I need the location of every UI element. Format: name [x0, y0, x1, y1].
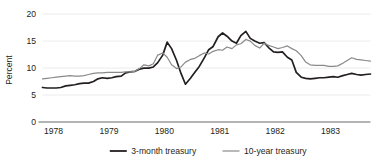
y-tick-label-5: 5 [31, 90, 36, 100]
chart-canvas: 05101520 197819791980198119821983 Percen… [0, 0, 380, 164]
y-tick-label-20: 20 [26, 9, 36, 19]
x-tick-label-1978: 1978 [44, 126, 63, 136]
data-series-group [43, 31, 371, 88]
y-tick-label-0: 0 [31, 117, 36, 127]
x-tick-label-1983: 1983 [321, 126, 340, 136]
x-tick-label-1980: 1980 [155, 126, 174, 136]
y-axis-tick-labels: 05101520 [26, 9, 36, 127]
legend-item-1: 3-month treasury [110, 146, 197, 156]
series-line-1 [43, 31, 371, 88]
legend-item-2: 10-year treasury [223, 146, 308, 156]
y-tick-label-10: 10 [26, 63, 36, 73]
treasury-yield-chart: 05101520 197819791980198119821983 Percen… [0, 0, 380, 164]
x-tick-label-1981: 1981 [210, 126, 229, 136]
legend-label-2: 10-year treasury [244, 146, 307, 156]
x-tick-label-1982: 1982 [266, 126, 285, 136]
legend-label-1: 3-month treasury [131, 146, 197, 156]
x-axis-tick-labels: 197819791980198119821983 [44, 126, 340, 136]
y-axis-title-label: Percent [4, 55, 14, 85]
y-axis-title: Percent [4, 55, 14, 85]
y-tick-label-15: 15 [26, 36, 36, 46]
series-line-2 [43, 39, 371, 78]
x-tick-label-1979: 1979 [99, 126, 118, 136]
chart-legend: 3-month treasury10-year treasury [110, 146, 307, 156]
